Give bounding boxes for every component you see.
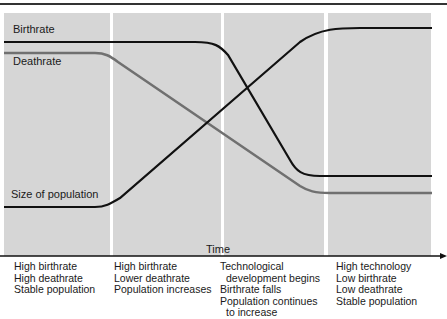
time-axis-arrow-icon bbox=[440, 253, 447, 259]
stage-4-line: Low deathrate bbox=[336, 284, 417, 296]
stage-4-description: High technology Low birthrate Low deathr… bbox=[336, 261, 417, 307]
stage-1-line: High birthrate bbox=[14, 261, 95, 273]
stage-1-line: Stable population bbox=[14, 284, 95, 296]
stage-3-line: to increase bbox=[220, 307, 320, 319]
birthrate-label: Birthrate bbox=[13, 23, 55, 35]
time-axis-label: Time bbox=[206, 243, 230, 255]
population-label: Size of population bbox=[11, 188, 98, 200]
stage-2-line: Population increases bbox=[114, 284, 211, 296]
population-line bbox=[4, 28, 432, 207]
birthrate-line bbox=[4, 42, 432, 176]
stage-3-line: Technological bbox=[220, 261, 320, 273]
stage-3-description: Technological development begins Birthra… bbox=[220, 261, 320, 319]
stage-4-line: Stable population bbox=[336, 296, 417, 308]
stage-4-line: High technology bbox=[336, 261, 417, 273]
deathrate-line bbox=[4, 53, 432, 193]
deathrate-label: Deathrate bbox=[13, 55, 61, 67]
stage-1-description: High birthrate High deathrate Stable pop… bbox=[14, 261, 95, 296]
stage-2-line: High birthrate bbox=[114, 261, 211, 273]
stage-3-line: Birthrate falls bbox=[220, 284, 320, 296]
stage-2-description: High birthrate Lower deathrate Populatio… bbox=[114, 261, 211, 296]
